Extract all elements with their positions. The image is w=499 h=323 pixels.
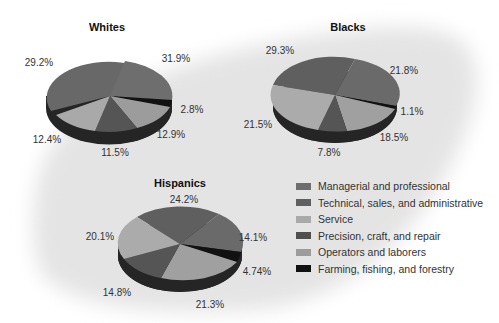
legend-swatch — [296, 249, 311, 256]
legend-label: Farming, fishing, and forestry — [318, 263, 454, 275]
pct-label: 7.8% — [318, 147, 341, 158]
pct-label: 14.1% — [239, 232, 267, 243]
pct-label: 14.8% — [103, 287, 131, 298]
legend-label: Managerial and professional — [318, 180, 450, 192]
legend-swatch — [296, 199, 311, 206]
pct-label: 29.2% — [25, 57, 53, 68]
pct-label: 1.1% — [401, 106, 424, 117]
legend-label: Service — [318, 213, 353, 225]
pct-label: 11.5% — [101, 147, 129, 158]
legend-swatch — [296, 216, 311, 223]
legend-item-managerial: Managerial and professional — [296, 178, 483, 195]
pct-label: 18.5% — [380, 132, 408, 143]
pie-title-whites: Whites — [89, 21, 125, 33]
pct-label: 20.1% — [86, 231, 114, 242]
legend-item-operators: Operators and laborers — [296, 244, 483, 261]
pct-label: 21.3% — [196, 299, 224, 310]
legend-swatch — [296, 232, 311, 239]
legend-label: Operators and laborers — [318, 246, 426, 258]
pct-label: 12.4% — [33, 134, 61, 145]
pct-label: 21.8% — [390, 65, 418, 76]
pie-title-hispanics: Hispanics — [154, 177, 206, 189]
pct-label: 4.74% — [243, 266, 271, 277]
legend-item-precision: Precision, craft, and repair — [296, 228, 483, 245]
legend-swatch — [296, 265, 311, 272]
legend-item-technical: Technical, sales, and administrative — [296, 195, 483, 212]
legend-label: Technical, sales, and administrative — [318, 197, 483, 209]
legend-item-service: Service — [296, 211, 483, 228]
pct-label: 12.9% — [157, 129, 185, 140]
pct-label: 24.2% — [170, 194, 198, 205]
legend-item-farming: Farming, fishing, and forestry — [296, 261, 483, 278]
pct-label: 21.5% — [244, 119, 272, 130]
chart-legend: Managerial and professional Technical, s… — [296, 178, 483, 277]
pct-label: 2.8% — [181, 104, 204, 115]
pie-title-blacks: Blacks — [330, 21, 365, 33]
pct-label: 31.9% — [162, 53, 190, 64]
legend-swatch — [296, 183, 311, 190]
legend-label: Precision, craft, and repair — [318, 230, 441, 242]
pct-label: 29.3% — [266, 45, 294, 56]
